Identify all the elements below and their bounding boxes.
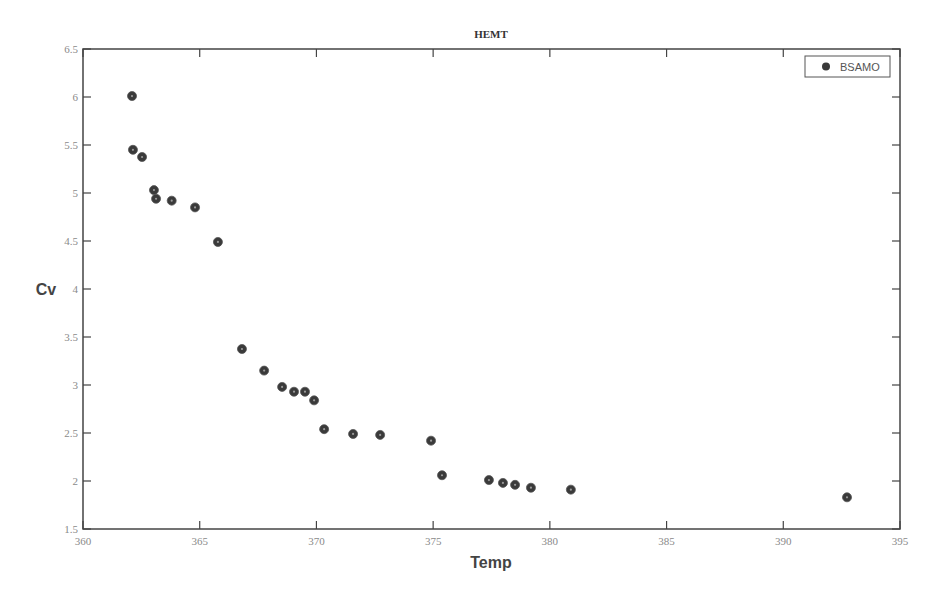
data-point-center	[502, 482, 504, 484]
y-tick-label: 6	[73, 91, 79, 103]
data-point-center	[846, 496, 848, 498]
data-point-center	[379, 434, 381, 436]
x-tick-label: 375	[425, 535, 442, 547]
data-point-center	[194, 206, 196, 208]
data-point-center	[153, 189, 155, 191]
y-tick-label: 5.5	[64, 139, 78, 151]
data-point-center	[293, 391, 295, 393]
data-point-center	[430, 440, 432, 442]
y-tick-label: 2.5	[64, 427, 78, 439]
data-point-center	[132, 149, 134, 151]
plot-area	[83, 49, 900, 529]
data-point-center	[281, 386, 283, 388]
y-tick-label: 4.5	[64, 235, 78, 247]
x-tick-label: 370	[308, 535, 325, 547]
y-tick-label: 2	[73, 475, 79, 487]
y-tick-label: 3.5	[64, 331, 78, 343]
x-tick-label: 360	[75, 535, 92, 547]
data-point-center	[155, 198, 157, 200]
data-point-center	[313, 399, 315, 401]
data-point-center	[323, 428, 325, 430]
x-tick-label: 365	[191, 535, 208, 547]
data-point-center	[263, 370, 265, 372]
x-axis-label: Temp	[470, 554, 512, 571]
y-tick-label: 3	[73, 379, 79, 391]
data-point-center	[488, 479, 490, 481]
legend-label: BSAMO	[840, 61, 880, 73]
y-tick-label: 6.5	[64, 43, 78, 55]
data-point-center	[241, 348, 243, 350]
data-point-center	[441, 474, 443, 476]
x-tick-label: 385	[658, 535, 675, 547]
legend-marker-icon	[822, 63, 830, 71]
data-point-center	[530, 487, 532, 489]
chart-title: HEMT	[474, 28, 508, 40]
data-point-center	[131, 95, 133, 97]
x-tick-label: 380	[542, 535, 559, 547]
legend: BSAMO	[805, 56, 890, 77]
x-tick-label: 395	[892, 535, 909, 547]
data-point-center	[352, 433, 354, 435]
data-point-center	[217, 241, 219, 243]
data-point-center	[514, 484, 516, 486]
data-point-center	[304, 391, 306, 393]
y-tick-label: 5	[73, 187, 79, 199]
data-point-center	[141, 156, 143, 158]
scatter-chart: HEMT 3603653703753803853903951.522.533.5…	[0, 0, 944, 600]
data-point-center	[171, 200, 173, 202]
y-axis-label: Cv	[36, 281, 57, 298]
x-tick-label: 390	[775, 535, 792, 547]
data-point-center	[570, 489, 572, 491]
y-tick-label: 4	[73, 283, 79, 295]
y-tick-label: 1.5	[64, 523, 78, 535]
